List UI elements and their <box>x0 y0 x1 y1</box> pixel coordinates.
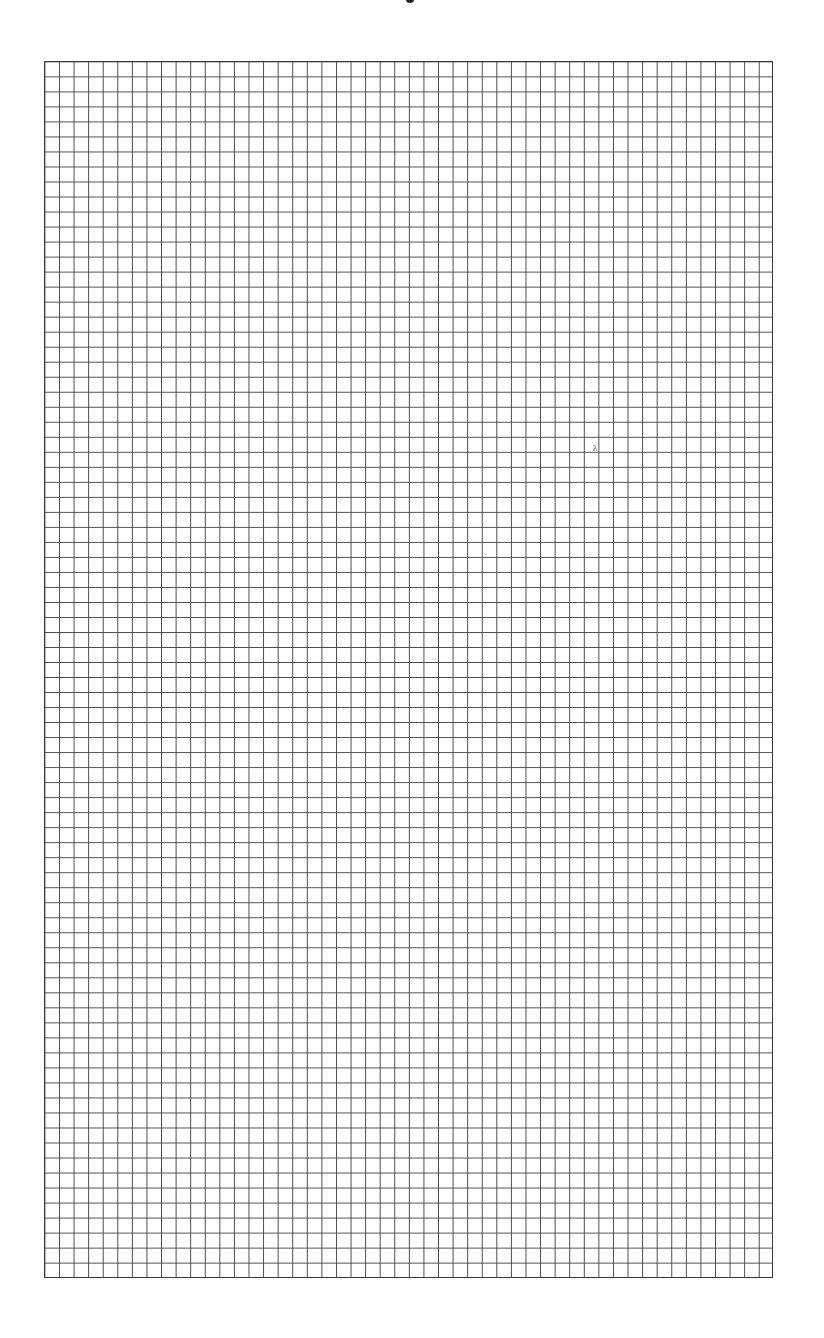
stray-pen-mark: λ <box>593 444 597 453</box>
top-edge-ink-mark <box>406 0 414 3</box>
graph-paper-grid <box>44 61 773 1278</box>
